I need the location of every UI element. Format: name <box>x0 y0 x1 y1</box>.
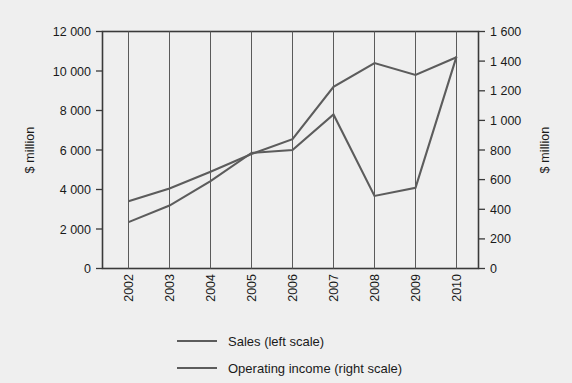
x-tick-label-2010: 2010 <box>450 274 464 302</box>
left-tick-label-6000: 6 000 <box>60 144 91 158</box>
x-tick-label-2002: 2002 <box>122 274 136 302</box>
line-chart-figure: 0 2 000 4 000 6 000 8 000 10 000 12 000 … <box>0 0 572 383</box>
left-axis-title: $ million <box>23 127 37 174</box>
left-tick-label-4000: 4 000 <box>60 183 91 197</box>
left-tick-label-0: 0 <box>84 262 91 276</box>
left-tick-label-10000: 10 000 <box>53 65 91 79</box>
right-tick-label-200: 200 <box>490 232 511 246</box>
right-tick-label-1200: 1 200 <box>490 84 521 98</box>
x-tick-label-2005: 2005 <box>245 274 259 302</box>
right-axis-title: $ million <box>538 127 552 174</box>
left-tick-label-8000: 8 000 <box>60 104 91 118</box>
right-tick-label-400: 400 <box>490 203 511 217</box>
x-tick-label-2003: 2003 <box>163 274 177 302</box>
right-tick-label-1600: 1 600 <box>490 25 521 39</box>
left-tick-label-12000: 12 000 <box>53 25 91 39</box>
right-tick-label-1000: 1 000 <box>490 114 521 128</box>
right-tick-label-0: 0 <box>490 262 497 276</box>
x-axis-tick-labels: 2002 2003 2004 2005 2006 2007 2008 2009 … <box>122 274 464 302</box>
left-tick-label-2000: 2 000 <box>60 223 91 237</box>
x-tick-label-2006: 2006 <box>286 274 300 302</box>
x-tick-label-2008: 2008 <box>368 274 382 302</box>
right-tick-label-1400: 1 400 <box>490 55 521 69</box>
right-tick-label-800: 800 <box>490 144 511 158</box>
legend-label-operating-income: Operating income (right scale) <box>228 361 402 376</box>
x-tick-label-2007: 2007 <box>327 274 341 302</box>
x-tick-label-2004: 2004 <box>204 274 218 302</box>
legend-label-sales: Sales (left scale) <box>228 334 324 349</box>
x-tick-label-2009: 2009 <box>409 274 423 302</box>
right-tick-label-600: 600 <box>490 173 511 187</box>
